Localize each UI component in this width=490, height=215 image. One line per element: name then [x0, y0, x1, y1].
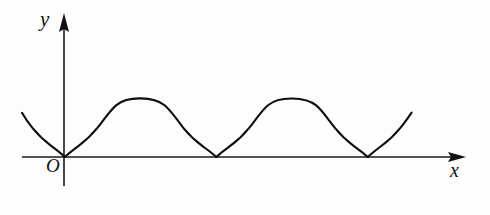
y-axis-label: y	[40, 9, 49, 30]
cycloid-figure: y x O	[0, 0, 490, 215]
cycloid-arch-partial-right	[368, 113, 412, 157]
cycloid-curve-group	[22, 98, 412, 157]
cycloid-plot	[0, 0, 490, 215]
x-axis-label: x	[450, 160, 459, 180]
cycloid-arch-1	[65, 98, 216, 157]
origin-label: O	[46, 156, 60, 175]
cycloid-arch-partial-left	[22, 113, 65, 157]
cycloid-arch-2	[216, 98, 367, 157]
